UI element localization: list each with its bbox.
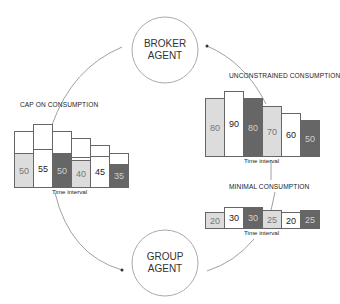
cropped-text-fragment: [0, 0, 333, 4]
cap-axis-label: Time interval: [52, 188, 87, 195]
unconstrained-title: UNCONSTRAINED CONSUMPTION: [229, 72, 340, 79]
unconstrained-bar: 70: [262, 106, 282, 157]
cap-bar: 50: [14, 153, 34, 188]
group-agent-line2: AGENT: [130, 263, 200, 275]
group-agent-line1: GROUP: [130, 251, 200, 263]
broker-agent-line2: AGENT: [130, 50, 200, 62]
cap-bar: 55: [33, 149, 53, 188]
cap-bar: 35: [109, 164, 129, 188]
unconstrained-bar: 80: [205, 98, 225, 157]
minimal-axis-label: Time interval: [244, 229, 279, 236]
connector-cap-to-group: [55, 193, 122, 270]
cap-title: CAP ON CONSUMPTION: [20, 101, 98, 108]
cap-bar: 40: [71, 160, 91, 188]
minimal-bar: 20: [281, 212, 301, 229]
minimal-title: MINIMAL CONSUMPTION: [229, 183, 309, 190]
minimal-bar: 30: [224, 207, 244, 229]
cap-outline: [71, 138, 91, 158]
connector-broker-to-cap: [52, 47, 122, 125]
cap-bar: 45: [90, 156, 110, 188]
minimal-bar: 20: [205, 212, 225, 229]
broker-agent-line1: BROKER: [130, 38, 200, 50]
arrowhead-dot: [121, 269, 124, 272]
unconstrained-bar: 50: [300, 120, 320, 157]
connector-minimal-to-group: [207, 239, 254, 271]
unconstrained-bar: 90: [224, 91, 244, 157]
minimal-bar: 25: [300, 210, 320, 229]
arrowhead-dot: [206, 45, 209, 48]
unconstrained-axis-label: Time interval: [244, 157, 279, 164]
unconstrained-bar: 60: [281, 113, 301, 157]
broker-agent-label: BROKER AGENT: [130, 38, 200, 62]
minimal-bar: 30: [243, 207, 263, 229]
cap-bar: 50: [52, 153, 72, 188]
unconstrained-bar: 80: [243, 98, 263, 157]
group-agent-label: GROUP AGENT: [130, 251, 200, 275]
minimal-bar: 25: [262, 210, 282, 229]
